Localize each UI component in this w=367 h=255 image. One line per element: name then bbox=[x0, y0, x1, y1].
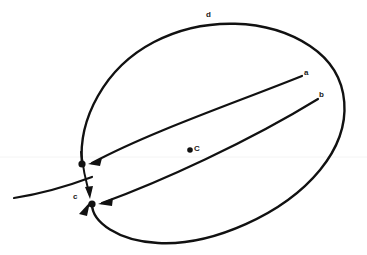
lower-dot bbox=[88, 200, 95, 207]
upper-dot bbox=[78, 160, 85, 167]
interior-point-label: C bbox=[194, 145, 200, 153]
arrow-b-curve bbox=[102, 99, 318, 203]
crossing-point-label: c bbox=[73, 193, 77, 201]
interior-point-C-dot bbox=[187, 147, 193, 153]
ellipse-d-curve bbox=[82, 24, 345, 244]
arrow-b-head-icon bbox=[98, 198, 113, 206]
diagram-canvas bbox=[0, 0, 367, 255]
arrow-a-head-icon bbox=[88, 158, 102, 166]
figure-root: d a b C c bbox=[0, 0, 367, 255]
bottom-arc-head-icon bbox=[79, 202, 90, 216]
lower-arrow-label: b bbox=[319, 91, 324, 99]
transversal-c-curve bbox=[14, 177, 92, 198]
upper-arrow-label: a bbox=[304, 69, 308, 77]
tick-through-c-head-icon bbox=[85, 186, 93, 199]
ellipse-label: d bbox=[206, 11, 211, 19]
